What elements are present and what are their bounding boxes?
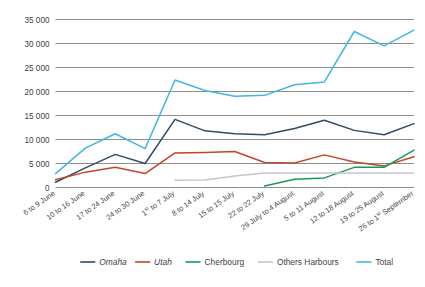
y-axis-tick-label: 35 000 bbox=[24, 16, 49, 25]
legend-label: Others Harbours bbox=[277, 257, 339, 267]
y-axis-tick-label: 25 000 bbox=[24, 64, 49, 73]
legend-label: Utah bbox=[154, 257, 172, 267]
line-chart: 35 00030 00025 00020 00015 00010 0005 00… bbox=[0, 0, 425, 287]
y-axis-tick-label: 10 000 bbox=[24, 136, 49, 145]
legend-label: Cherbourg bbox=[205, 257, 245, 267]
chart-canvas: 35 00030 00025 00020 00015 00010 0005 00… bbox=[0, 0, 425, 287]
y-axis-tick-label: 20 000 bbox=[24, 88, 49, 97]
y-axis-tick-label: 5 000 bbox=[29, 160, 50, 169]
legend-label: Omaha bbox=[99, 257, 127, 267]
legend-label: Total bbox=[375, 257, 393, 267]
y-axis-tick-label: 15 000 bbox=[24, 112, 49, 121]
y-axis-tick-label: 30 000 bbox=[24, 40, 49, 49]
